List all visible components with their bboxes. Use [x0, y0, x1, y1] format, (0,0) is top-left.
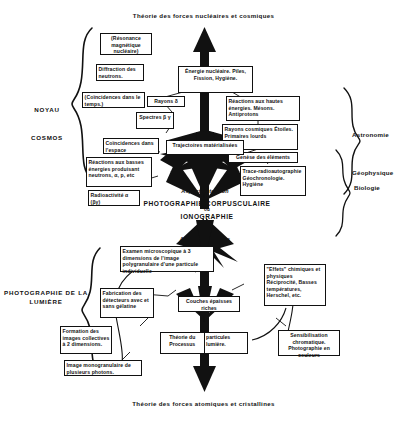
box-formation-images: Formation des images collectives à 2 dim… [60, 326, 112, 354]
box-sensibilisation-chromatique: Sensibilisation chromatique. Photographi… [278, 330, 340, 356]
caption-aspect-detection: Aspect détection [165, 188, 245, 194]
box-fabrication-detecteurs: Fabrication des détecteurs avec et sans … [100, 288, 154, 318]
box-energie-nucleaire: Énergie nucléaire. Piles, Fission, Hygiè… [178, 66, 253, 93]
box-reactions-basses-energies: Réactions aux basses énergies produisant… [86, 157, 152, 187]
box-coincidences-espace: Coïncidences dans l'espace [103, 138, 159, 154]
top-title: Théorie des forces nucléaires et cosmiqu… [0, 12, 407, 19]
center-title-line3: IONOGRAPHIE [112, 213, 302, 220]
caption-aspect-processus: Aspect processus [165, 236, 245, 242]
side-label-biologie: Biologie [354, 183, 407, 192]
side-label-geophysique: Géophysique [352, 168, 407, 177]
box-reactions-hautes-energies: Réactions aux hautes énergies. Mésons. A… [226, 96, 300, 121]
box-trajectoires-materialisees: Trajectoires matérialisées [166, 140, 244, 155]
box-resonance-magnetique: (Résonance magnétique nucléaire) [100, 33, 152, 55]
box-diffraction-neutrons: Diffraction des neutrons. [96, 64, 144, 81]
center-title-line2: ou [112, 207, 302, 212]
center-title-line1: PHOTOGRAPHIE CORPUSCULAIRE [112, 200, 302, 207]
box-spectres-beta-gamma: Spectres β γ [136, 112, 174, 129]
side-label-cosmos: COSMOS [14, 133, 80, 142]
side-label-noyau: NOYAU [14, 105, 80, 114]
box-theorie-processus: Théorie du Processus particules lumière. [160, 332, 248, 354]
box-image-monogranulaire: Image monogranulaire de plusieurs photon… [64, 360, 142, 376]
box-effets-chimiques: "Effets" chimiques et physiques Réciproc… [264, 264, 326, 306]
diagram-canvas: Théorie des forces nucléaires et cosmiqu… [0, 0, 407, 422]
bottom-title: Théorie des forces atomiques et cristall… [0, 400, 407, 407]
side-label-photographie-lumiere: PHOTOGRAPHIE DE LA LUMIÈRE [4, 288, 88, 307]
box-trace-radioautographie: Trace-radioautographie Géochronologie. H… [240, 166, 306, 196]
box-coincidences-temps: (Coïncidences dans le temps.) [82, 92, 145, 108]
side-label-astronomie: Astronomie [352, 130, 406, 139]
box-theorie-processus-right: particules lumière. [204, 333, 248, 353]
box-rayons-delta: Rayons δ [147, 96, 185, 107]
box-theorie-processus-left: Théorie du Processus [161, 333, 204, 353]
center-title: PHOTOGRAPHIE CORPUSCULAIRE ou IONOGRAPHI… [112, 200, 302, 220]
box-couches-epaisses: Couches épaisses riches [178, 296, 240, 312]
box-examen-microscopique: Examen microscopique à 3 dimensions de l… [120, 246, 214, 272]
